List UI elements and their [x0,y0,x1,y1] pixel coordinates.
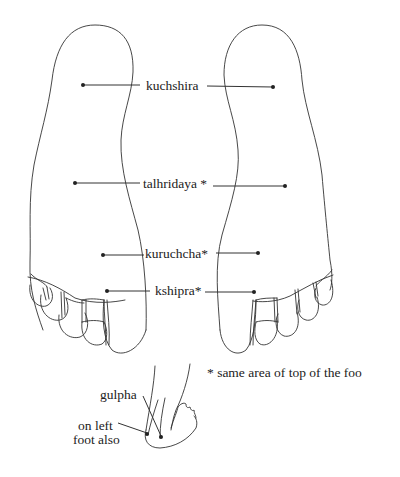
side-view-foot: gulpha on left foot also [73,364,197,448]
kuchshira-right-dot [271,85,275,89]
foot-also-label: foot also [73,432,120,447]
kuruchcha-right-dot [256,251,260,255]
left-toe-2 [82,322,107,345]
right-foot-ball-line [253,275,333,302]
point-kuchshira: kuchshira [81,78,275,93]
left-foot-outline [30,25,146,330]
right-foot-outline [217,25,332,330]
gulpha-dot-1 [159,435,163,439]
kuruchcha-left-dot [101,253,105,257]
point-talhridaya: talhridaya * [73,176,287,191]
diagram-canvas: kuchshira talhridaya * kuruchcha* kshipr… [0,0,400,477]
point-kshipra: kshipra* [105,283,256,298]
kuchshira-left-dot [81,83,85,87]
talhridaya-left-dot [73,181,77,185]
right-toe-2 [255,320,278,345]
left-foot-ball-line [28,277,125,302]
point-kuruchcha: kuruchcha* [101,246,260,261]
gulpha-label: gulpha [100,387,137,402]
side-view-toes [171,403,196,428]
foot-diagram: kuchshira talhridaya * kuruchcha* kshipr… [0,0,400,477]
left-toe-3 [59,313,88,338]
asterisk-note: * same area of top of the foo [207,365,362,380]
right-foot [217,25,333,353]
talhridaya-label: talhridaya * [143,176,207,191]
left-toe-1 [103,300,146,353]
right-toe-4 [298,297,319,320]
kshipra-label: kshipra* [155,283,202,298]
kuchshira-label: kuchshira [146,78,198,93]
on-left-label: on left [78,418,113,433]
left-foot [28,25,146,353]
kuruchcha-label: kuruchcha* [145,246,208,261]
kshipra-left-dot [105,289,109,293]
talhridaya-right-dot [283,184,287,188]
right-toe-3 [276,312,298,336]
gulpha-dot-2 [145,432,149,436]
kshipra-right-dot [252,290,256,294]
